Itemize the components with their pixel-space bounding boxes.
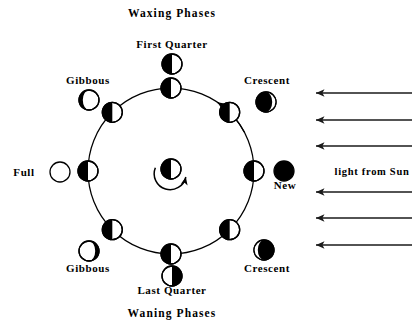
phase-new-label: New	[274, 179, 297, 191]
moon-disc	[50, 162, 70, 182]
phase-crescent-waxing-label: Crescent	[244, 74, 290, 86]
moon-dark-half	[162, 54, 172, 74]
moon-dark-half	[102, 220, 112, 240]
orbit-moon-last-quarter	[161, 244, 181, 264]
phase-gibbous-waning-icon	[79, 241, 99, 261]
phase-crescent-waning-label: Crescent	[244, 262, 290, 274]
orbit-moon-first-quarter	[161, 78, 181, 98]
phase-last-quarter-icon	[162, 266, 182, 286]
phase-gibbous-waxing-icon	[79, 90, 99, 110]
orbit-moon-full	[78, 161, 98, 181]
phase-full-icon	[50, 162, 70, 182]
phase-full-label: Full	[13, 166, 34, 178]
phase-last-quarter-label: Last Quarter	[137, 284, 206, 296]
moon-dark-half	[161, 78, 171, 98]
phase-gibbous-waxing-label: Gibbous	[66, 74, 110, 86]
heading-waxing-phases: Waxing Phases	[128, 7, 216, 20]
light-from-sun-label: light from Sun	[335, 166, 410, 177]
phase-first-quarter-icon	[162, 54, 182, 74]
phase-gibbous-waning-label: Gibbous	[66, 262, 110, 274]
phase-first-quarter-label: First Quarter	[136, 38, 208, 50]
diagram-canvas: First QuarterGibbousCrescentFullNewGibbo…	[0, 0, 412, 334]
moon-dark-half	[78, 161, 88, 181]
orbit-moon-new	[244, 161, 264, 181]
orbit-moon-waxing-crescent	[220, 102, 240, 122]
phase-crescent-waning-icon	[254, 240, 274, 260]
orbit-moon-waning-gibbous	[102, 220, 122, 240]
heading-waning-phases: Waning Phases	[128, 307, 217, 320]
phase-crescent-waxing-icon	[256, 92, 276, 112]
orbit-moon-waning-crescent	[220, 220, 240, 240]
moon-dark-half	[244, 161, 254, 181]
phase-new-icon	[274, 161, 294, 181]
moon-disc	[274, 161, 294, 181]
moon-dark-half	[102, 102, 112, 122]
moon-dark-half	[161, 159, 171, 179]
moon-dark-half	[161, 244, 171, 264]
earth-group	[154, 159, 186, 190]
moon-dark-half	[172, 266, 182, 286]
earth-icon	[161, 159, 181, 179]
orbit-moon-waxing-gibbous	[102, 102, 122, 122]
moon-phase-diagram: First QuarterGibbousCrescentFullNewGibbo…	[0, 0, 412, 334]
